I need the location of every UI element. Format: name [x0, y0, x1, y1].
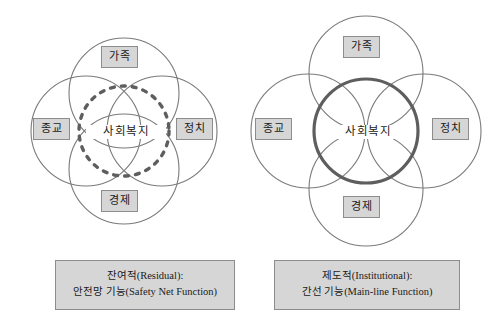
comparison-figure: 가족 종교 정치 경제 사회복지 잔여적(Residual): 안전망 기능(S… — [0, 0, 488, 323]
diagram-panel-residual: 가족 종교 정치 경제 사회복지 잔여적(Residual): 안전망 기능(S… — [0, 0, 244, 323]
set-label-religion-institutional: 종교 — [255, 118, 292, 140]
set-label-family-residual: 가족 — [101, 46, 138, 68]
set-label-economy-residual: 경제 — [101, 190, 138, 212]
diagram-panel-institutional: 가족 종교 정치 경제 사회복지 제도적(Institutional): 간선 … — [244, 0, 488, 323]
caption-residual-line2: 안전망 기능(Safety Net Function) — [60, 284, 230, 300]
caption-residual-line1: 잔여적(Residual): — [60, 268, 230, 284]
set-circle-economy — [309, 132, 423, 246]
caption-institutional-line2: 간선 기능(Main-line Function) — [279, 284, 455, 300]
set-label-religion-residual: 종교 — [33, 118, 70, 140]
set-label-family-institutional: 가족 — [343, 36, 380, 58]
set-label-politics-residual: 정치 — [176, 118, 213, 140]
caption-institutional-line1: 제도적(Institutional): — [279, 268, 455, 284]
set-label-economy-institutional: 경제 — [343, 196, 380, 218]
set-circle-family — [309, 16, 423, 130]
center-label-social-welfare-institutional: 사회복지 — [328, 125, 408, 139]
center-label-social-welfare-residual: 사회복지 — [86, 125, 166, 139]
set-label-politics-institutional: 정치 — [432, 118, 469, 140]
caption-institutional: 제도적(Institutional): 간선 기능(Main-line Func… — [274, 260, 460, 310]
caption-residual: 잔여적(Residual): 안전망 기능(Safety Net Functio… — [55, 260, 235, 310]
